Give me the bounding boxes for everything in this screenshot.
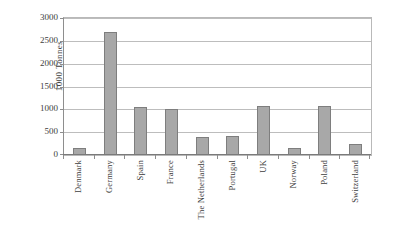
x-axis-label-slot: Denmark	[63, 158, 94, 232]
bar-series	[64, 18, 371, 155]
x-axis-label-slot: The Netherlands	[186, 158, 217, 232]
bar-slot	[64, 18, 95, 155]
x-axis-label-slot: Poland	[309, 158, 340, 232]
bar[interactable]	[257, 106, 270, 155]
y-axis-tick-label: 1500	[22, 81, 58, 91]
y-axis-tick-label: 0	[22, 149, 58, 159]
x-axis-category-label: UK	[258, 160, 267, 173]
x-axis-category-label: Switzerland	[350, 160, 359, 203]
y-axis-tick-label: 2500	[22, 35, 58, 45]
y-axis-tick-label: 1000	[22, 103, 58, 113]
x-axis-label-slot: Spain	[124, 158, 155, 232]
bar[interactable]	[196, 137, 209, 155]
x-axis-label-slot: Switzerland	[339, 158, 370, 232]
x-axis-label-slot: France	[155, 158, 186, 232]
bar-slot	[187, 18, 218, 155]
bar-chart: 1000 Tonnes 300025002000150010005000 Den…	[0, 0, 397, 234]
bar-slot	[340, 18, 371, 155]
bar-slot	[218, 18, 249, 155]
bar-slot	[156, 18, 187, 155]
bar-slot	[125, 18, 156, 155]
bar-slot	[248, 18, 279, 155]
x-axis-category-label: Spain	[135, 160, 144, 180]
x-axis-category-label: Germany	[105, 160, 114, 193]
x-axis-label-slot: Norway	[278, 158, 309, 232]
bar[interactable]	[104, 32, 117, 155]
bar[interactable]	[134, 107, 147, 155]
bar-slot	[95, 18, 126, 155]
y-axis-tick-labels: 300025002000150010005000	[22, 12, 58, 154]
plot-area	[63, 17, 372, 156]
y-axis-tick-label: 500	[22, 126, 58, 136]
bar[interactable]	[226, 136, 239, 155]
x-axis-label-slot: Germany	[94, 158, 125, 232]
x-axis-category-label: Denmark	[74, 160, 83, 193]
y-axis-tick-label: 3000	[22, 12, 58, 22]
bar[interactable]	[318, 106, 331, 155]
x-axis-category-labels: DenmarkGermanySpainFranceThe Netherlands…	[63, 158, 370, 232]
bar[interactable]	[165, 109, 178, 155]
x-axis-label-slot: Portugal	[217, 158, 248, 232]
x-axis-label-slot: UK	[247, 158, 278, 232]
x-axis-category-label: Poland	[319, 160, 328, 185]
x-axis-category-label: Portugal	[227, 160, 236, 190]
bar-slot	[310, 18, 341, 155]
x-axis-category-label: The Netherlands	[197, 160, 206, 219]
bar-slot	[279, 18, 310, 155]
x-axis-category-label: Norway	[289, 160, 298, 189]
x-axis-category-label: France	[166, 160, 175, 184]
y-axis-tick-label: 2000	[22, 58, 58, 68]
